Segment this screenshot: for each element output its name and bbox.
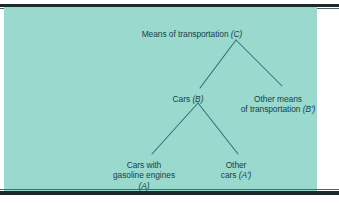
edge-root-to-cars [200,40,236,88]
node-root-text: Means of transportation [142,29,231,39]
figure-root: Means of transportation (C) Cars (B) Oth… [0,0,339,203]
node-cars: Cars (B) [152,94,224,104]
edge-cars-to-gasoline [152,103,198,154]
node-root-symbol: (C) [231,29,242,39]
node-other-means-of-transportation: Other meansof transportation (B') [228,94,317,115]
bottom-rule-thin [0,189,339,190]
node-other-cars: Othercars (A') [200,160,272,181]
node-means-of-transportation: Means of transportation (C) [112,29,272,39]
bottom-rule [0,191,339,195]
node-gas-line1: Cars with [127,160,161,170]
diagram-panel: Means of transportation (C) Cars (B) Oth… [4,7,317,193]
node-other-symbol: (B') [303,104,316,114]
node-othcars-symbol: (A') [239,170,252,180]
node-cars-symbol: (B) [192,94,203,104]
node-gas-line2: gasoline engines [113,170,175,180]
node-other-line1: Other means [254,94,302,104]
node-other-line2: of transportation [241,104,303,114]
node-cars-with-gasoline-engines: Cars withgasoline engines(A) [96,160,192,191]
node-othcars-line1: Other [226,160,247,170]
node-othcars-line2: cars [221,170,239,180]
node-cars-text: Cars [173,94,193,104]
edge-root-to-other [236,40,282,86]
